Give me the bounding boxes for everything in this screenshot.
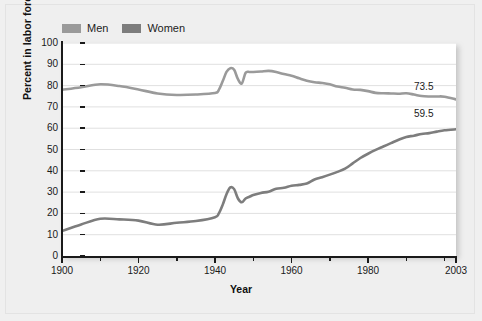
legend-entry-men: Men [62, 23, 108, 34]
data-series-layer [62, 43, 456, 256]
x-tick-mark [100, 256, 102, 261]
x-tick-mark [329, 256, 331, 261]
y-tick-label: 0 [30, 251, 58, 261]
x-tick-label: 1960 [280, 265, 302, 276]
y-tick-mark [80, 106, 85, 108]
y-tick-label: 80 [30, 81, 58, 91]
x-tick-label: 1940 [204, 265, 226, 276]
y-axis-line [61, 41, 63, 258]
y-tick-label: 40 [30, 166, 58, 176]
y-tick-mark [80, 191, 85, 193]
x-tick-mark [253, 256, 255, 261]
plot-area [62, 43, 456, 256]
x-tick-mark [444, 256, 446, 261]
x-tick-label: 1900 [51, 265, 73, 276]
legend-entry-women: Women [122, 23, 185, 34]
y-tick-mark [80, 170, 85, 172]
y-tick-label: 90 [30, 59, 58, 69]
x-tick-mark [214, 256, 216, 263]
y-tick-label: 50 [30, 145, 58, 155]
x-axis-title: Year [0, 283, 482, 295]
x-tick-mark [138, 256, 140, 263]
y-tick-mark [80, 149, 85, 151]
x-tick-mark [406, 256, 408, 261]
chart-figure: Men Women 1009080706050403020100 1900192… [0, 0, 482, 321]
x-tick-mark [455, 256, 457, 263]
endpoint-label-women: 59.5 [414, 108, 433, 119]
y-tick-label: 60 [30, 123, 58, 133]
y-tick-mark [80, 255, 85, 257]
legend-label-men: Men [87, 23, 108, 34]
x-tick-label: 1980 [357, 265, 379, 276]
y-tick-mark [80, 127, 85, 129]
endpoint-label-men: 73.5 [414, 81, 433, 92]
x-tick-mark [291, 256, 293, 263]
y-tick-mark [80, 213, 85, 215]
y-tick-label: 10 [30, 230, 58, 240]
y-tick-mark [80, 42, 85, 44]
y-tick-label: 70 [30, 102, 58, 112]
x-tick-mark [176, 256, 178, 261]
y-tick-label: 30 [30, 187, 58, 197]
legend-swatch-men [62, 24, 81, 33]
x-tick-mark [367, 256, 369, 263]
x-tick-mark [61, 256, 63, 263]
x-axis-line [61, 256, 457, 258]
y-tick-mark [80, 234, 85, 236]
legend-swatch-women [122, 24, 141, 33]
chart-legend: Men Women [62, 20, 185, 36]
y-tick-label: 100 [30, 38, 58, 48]
y-tick-label: 20 [30, 208, 58, 218]
x-tick-label: 1920 [127, 265, 149, 276]
y-tick-mark [80, 64, 85, 66]
y-tick-mark [80, 85, 85, 87]
legend-label-women: Women [147, 23, 185, 34]
x-tick-label: 2003 [445, 265, 467, 276]
y-axis-title: Percent in labor force [21, 0, 33, 100]
